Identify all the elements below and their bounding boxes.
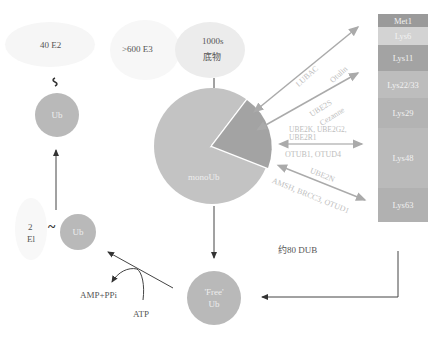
amp-label: AMP+PPi	[80, 290, 117, 300]
linkage-label: Lys29	[393, 108, 414, 118]
ub-e2-circle: Ub	[35, 93, 79, 137]
linkage-lys22-33: Lys22/33	[378, 71, 428, 98]
linkage-lys6: Lys6	[378, 27, 428, 45]
atp-label: ATP	[133, 309, 149, 319]
linkage-lys48: Lys48	[378, 128, 428, 188]
linkage-label: Lys6	[395, 31, 412, 41]
e2-count-label: 40 E2	[40, 40, 61, 50]
mono-ub-label: monoUb	[188, 172, 220, 182]
linkage-label: Lys22/33	[387, 80, 419, 90]
free-ub-circle: 'Free' Ub	[187, 271, 241, 325]
mono-poly-pie	[154, 88, 272, 204]
linkage-lys11: Lys11	[378, 45, 428, 71]
linkage-lys63: Lys63	[378, 188, 428, 222]
free-ub-line1: 'Free'	[204, 286, 223, 298]
enzyme-label-otub1: OTUB1, OTUD4	[285, 150, 341, 159]
substrate-label: 底物	[203, 50, 221, 63]
linkage-met1: Met1	[378, 14, 428, 27]
substrate-count: 1000s	[202, 36, 224, 46]
ub-e1-circle: Ub	[60, 214, 96, 250]
e1-label: El	[27, 234, 35, 244]
dub-count-label: 约80 DUB	[278, 243, 317, 256]
e1-count: 2	[28, 222, 33, 232]
linkage-label: Lys11	[393, 53, 413, 63]
ub-e2-label: Ub	[52, 109, 63, 121]
linkage-label: Met1	[394, 16, 412, 26]
free-ub-line2: Ub	[209, 298, 220, 310]
linkage-label: Lys48	[393, 153, 414, 163]
thioester-symbol: ~	[48, 220, 55, 236]
ub-e1-label: Ub	[73, 226, 84, 238]
linkage-bar: Met1 Lys6 Lys11 Lys22/33 Lys29 Lys48 Lys…	[378, 14, 428, 222]
linkage-lys29: Lys29	[378, 98, 428, 128]
enzyme-label-ube2k: UBE2K, UBE2G2, UBE2R1	[289, 126, 359, 142]
linkage-label: Lys63	[393, 200, 414, 210]
e3-count-label: >600 E3	[122, 44, 153, 54]
